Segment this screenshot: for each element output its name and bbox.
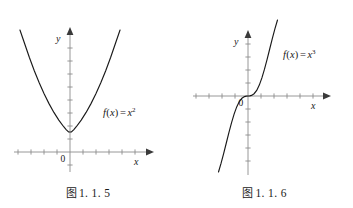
y-axis-label: y — [233, 36, 239, 47]
function-label-equals: = — [120, 107, 126, 118]
function-label-paren-close: ) — [115, 107, 119, 119]
plot-parabola: y x 0 f(x)=x2 — [0, 0, 176, 180]
origin-label: 0 — [239, 98, 244, 108]
caption-prefix-label: 图 — [66, 187, 77, 200]
x-axis-arrowhead — [323, 93, 331, 100]
function-label-equals: = — [300, 49, 306, 60]
figure-1-1-6: y x 0 f(x)=x3 图1. 1. 6 — [176, 0, 353, 208]
svg-text:f(x)=x3: f(x)=x3 — [283, 48, 316, 61]
function-label-exponent: 2 — [132, 106, 136, 114]
figure-page: y x 0 f(x)=x2 图1. 1. 5 — [0, 0, 353, 208]
function-label-x-cubed: f(x)=x3 — [283, 48, 316, 61]
y-axis-arrowhead — [67, 27, 74, 35]
x-axis-arrowhead — [146, 149, 154, 156]
origin-label: 0 — [61, 154, 66, 164]
figure-caption-1-1-6: 图1. 1. 6 — [176, 184, 353, 200]
caption-prefix-label: 图 — [242, 187, 253, 200]
svg-text:f(x)=x2: f(x)=x2 — [103, 106, 136, 119]
caption-number-label: 1. 1. 6 — [255, 187, 287, 199]
function-label-exponent: 3 — [312, 48, 316, 56]
caption-number-label: 1. 1. 5 — [79, 187, 111, 199]
y-axis-label: y — [55, 33, 61, 44]
figure-caption-1-1-5: 图1. 1. 5 — [0, 184, 176, 200]
plot-cubic: y x 0 f(x)=x3 — [176, 0, 353, 180]
y-axis-arrowhead — [245, 30, 252, 38]
figure-1-1-5: y x 0 f(x)=x2 图1. 1. 5 — [0, 0, 176, 208]
x-axis-label: x — [133, 156, 139, 167]
function-label-x-squared: f(x)=x2 — [103, 106, 136, 119]
function-label-paren-close: ) — [295, 49, 299, 61]
x-axis-label: x — [310, 100, 316, 111]
